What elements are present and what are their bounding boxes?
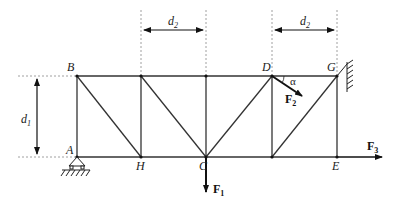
node-label-b: B bbox=[67, 60, 75, 74]
node-label-e: E bbox=[331, 159, 340, 173]
truss-members bbox=[77, 76, 337, 157]
truss-svg: B A H C D G E d1 d2 d2 F1 F2 F3 α bbox=[0, 0, 395, 210]
force-label-f1: F1 bbox=[213, 182, 224, 198]
node-label-h: H bbox=[135, 159, 146, 173]
angle-arc bbox=[282, 76, 284, 83]
node-label-a: A bbox=[65, 143, 74, 157]
angle-label-alpha: α bbox=[290, 75, 296, 87]
dimension-label-d2-right: d2 bbox=[300, 14, 310, 30]
force-label-f2: F2 bbox=[285, 92, 296, 108]
force-label-f3: F3 bbox=[367, 139, 378, 155]
truss-diagram: B A H C D G E d1 d2 d2 F1 F2 F3 α bbox=[0, 0, 395, 210]
dimension-label-d1: d1 bbox=[21, 112, 31, 128]
node-label-g: G bbox=[327, 60, 336, 74]
wall-support-icon bbox=[337, 60, 353, 92]
force-arrows bbox=[206, 76, 382, 192]
node-label-d: D bbox=[261, 60, 271, 74]
pin-support-icon bbox=[61, 157, 90, 176]
truss-joints bbox=[75, 74, 338, 158]
node-label-c: C bbox=[199, 159, 208, 173]
dimension-label-d2-left: d2 bbox=[168, 14, 178, 30]
